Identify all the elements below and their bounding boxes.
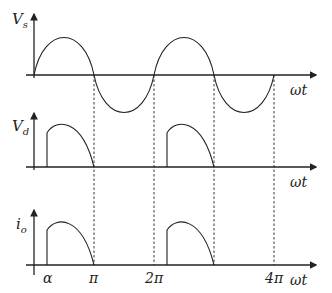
vd-panel: Vd ωt	[12, 113, 316, 190]
x-tick-labels: α π 2π 4π	[43, 270, 284, 286]
vd-label: Vd	[12, 117, 29, 137]
io-xlabel: ωt	[290, 272, 307, 288]
vd-waveform-2	[167, 124, 214, 167]
io-waveform-1	[47, 222, 94, 265]
tick-2pi: 2π	[144, 270, 164, 286]
vs-label: Vs	[12, 10, 28, 30]
vd-xlabel: ωt	[290, 174, 307, 190]
io-waveform-2	[167, 222, 214, 265]
io-label: io	[16, 215, 27, 235]
vd-waveform-1	[47, 124, 94, 167]
vs-panel: Vs ωt	[12, 10, 316, 113]
dashed-guides	[94, 75, 274, 265]
tick-alpha: α	[43, 270, 53, 286]
tick-pi: π	[88, 270, 99, 286]
rectifier-waveform-diagram: Vs ωt Vd ωt io ωt α π 2π 4π	[0, 0, 332, 293]
vs-xlabel: ωt	[290, 82, 307, 98]
tick-4pi: 4π	[264, 270, 284, 286]
